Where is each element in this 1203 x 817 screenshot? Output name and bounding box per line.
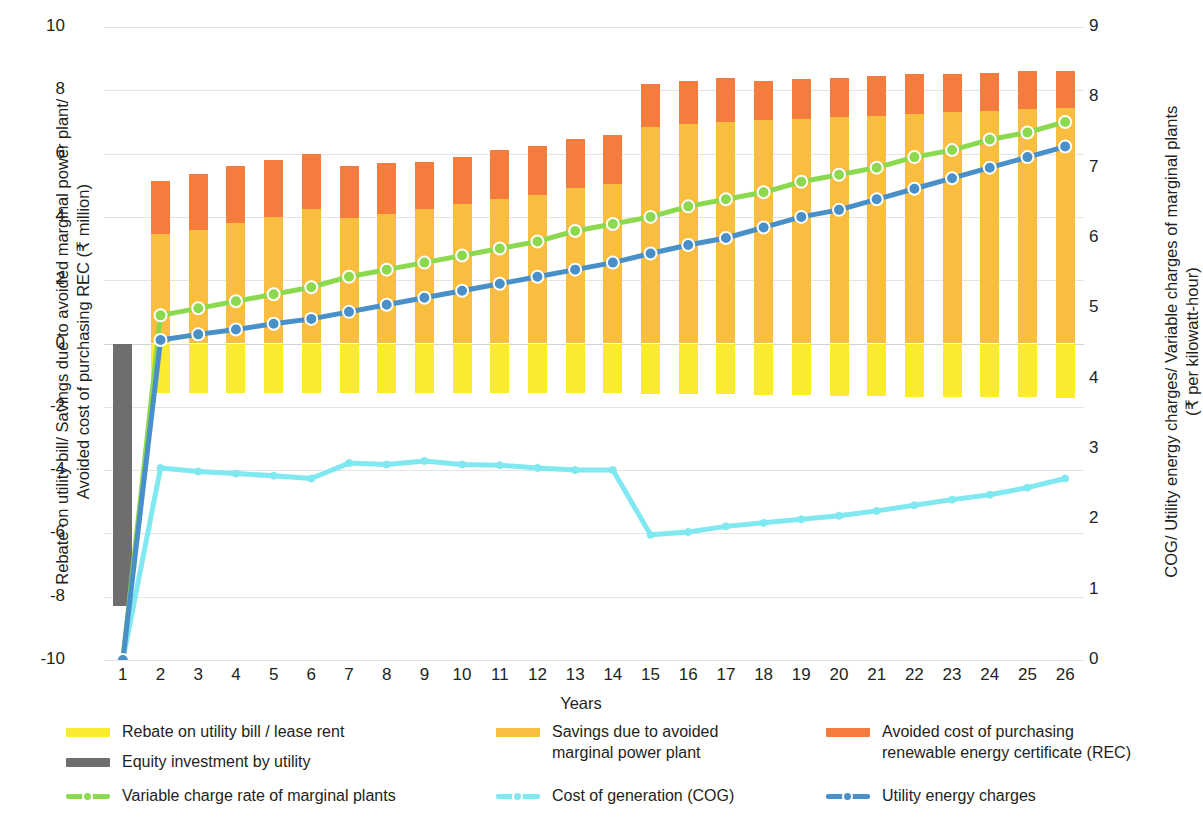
x-axis-tick-label: 15 bbox=[631, 665, 671, 685]
bar-group bbox=[340, 27, 359, 660]
bar-group bbox=[641, 27, 660, 660]
gridline bbox=[104, 533, 1084, 534]
x-axis-tick-label: 16 bbox=[668, 665, 708, 685]
bar-segment-rebate bbox=[716, 344, 735, 395]
x-axis-tick-label: 20 bbox=[819, 665, 859, 685]
y-axis-left-tick-label: -4 bbox=[25, 459, 65, 479]
legend-label: Avoided cost of purchasing renewable ene… bbox=[882, 722, 1131, 764]
bar-group bbox=[566, 27, 585, 660]
bar-group bbox=[189, 27, 208, 660]
bar-segment-rec bbox=[830, 78, 849, 118]
y-axis-left-tick-label: 10 bbox=[25, 16, 65, 36]
x-axis-tick-label: 13 bbox=[555, 665, 595, 685]
y-axis-left-tick-label: -8 bbox=[25, 586, 65, 606]
x-axis-tick-label: 12 bbox=[517, 665, 557, 685]
bar-segment-savings bbox=[980, 111, 999, 344]
bar-segment-rebate bbox=[867, 344, 886, 396]
legend-item[interactable]: Savings due to avoided marginal power pl… bbox=[496, 722, 718, 764]
legend-item[interactable]: Cost of generation (COG) bbox=[496, 786, 734, 807]
legend-item[interactable]: Avoided cost of purchasing renewable ene… bbox=[826, 722, 1131, 764]
legend-item[interactable]: Equity investment by utility bbox=[66, 752, 311, 773]
y-axis-left-tick-label: -6 bbox=[25, 522, 65, 542]
legend-item[interactable]: Variable charge rate of marginal plants bbox=[66, 786, 396, 807]
bar-group bbox=[490, 27, 509, 660]
bar-segment-rec bbox=[754, 81, 773, 121]
y-axis-left-tick-label: 6 bbox=[25, 143, 65, 163]
x-axis-tick-label: 21 bbox=[857, 665, 897, 685]
legend-swatch-icon bbox=[496, 728, 540, 737]
bar-segment-rebate bbox=[754, 344, 773, 395]
bar-segment-savings bbox=[415, 209, 434, 344]
bar-segment-rebate bbox=[679, 344, 698, 395]
x-axis-tick-label: 5 bbox=[254, 665, 294, 685]
bar-segment-rec bbox=[980, 73, 999, 111]
x-axis-tick-label: 7 bbox=[329, 665, 369, 685]
y-axis-left-tick-label: -10 bbox=[25, 649, 65, 669]
bar-segment-rec bbox=[716, 78, 735, 122]
gridline bbox=[104, 597, 1084, 598]
y-axis-left-tick-label: 0 bbox=[25, 333, 65, 353]
bar-segment-savings bbox=[302, 209, 321, 344]
bar-segment-savings bbox=[867, 116, 886, 344]
bar-segment-rebate bbox=[189, 344, 208, 393]
x-axis-tick-label: 24 bbox=[970, 665, 1010, 685]
bar-group bbox=[151, 27, 170, 660]
bar-segment-rec bbox=[792, 79, 811, 119]
y-axis-left-tick-label: 8 bbox=[25, 79, 65, 99]
bar-group bbox=[679, 27, 698, 660]
bar-group bbox=[415, 27, 434, 660]
bar-segment-savings bbox=[528, 195, 547, 344]
legend-item[interactable]: Rebate on utility bill / lease rent bbox=[66, 722, 344, 743]
bar-segment-savings bbox=[226, 223, 245, 343]
bar-segment-rec bbox=[1018, 71, 1037, 109]
bar-segment-rebate bbox=[641, 344, 660, 395]
x-axis-tick-label: 25 bbox=[1007, 665, 1047, 685]
bar-segment-rec bbox=[151, 181, 170, 235]
legend-label: Utility energy charges bbox=[882, 786, 1036, 807]
bar-group bbox=[603, 27, 622, 660]
x-axis-tick-label: 23 bbox=[932, 665, 972, 685]
bar-segment-rebate bbox=[943, 344, 962, 397]
legend-label: Rebate on utility bill / lease rent bbox=[122, 722, 344, 743]
legend-item[interactable]: Utility energy charges bbox=[826, 786, 1036, 807]
bar-segment-rec bbox=[189, 174, 208, 229]
bar-group bbox=[754, 27, 773, 660]
bar-group bbox=[302, 27, 321, 660]
bar-group bbox=[264, 27, 283, 660]
bar-group bbox=[830, 27, 849, 660]
bar-segment-rec bbox=[264, 160, 283, 217]
y-axis-right-tick-label: 7 bbox=[1089, 157, 1129, 177]
gridline bbox=[104, 280, 1084, 281]
x-axis-tick-label: 18 bbox=[744, 665, 784, 685]
bar-segment-rebate bbox=[453, 344, 472, 393]
legend-swatch-icon bbox=[66, 728, 110, 737]
legend-label: Savings due to avoided marginal power pl… bbox=[552, 722, 718, 764]
x-axis-tick-label: 26 bbox=[1045, 665, 1085, 685]
bar-segment-rebate bbox=[1018, 344, 1037, 398]
bar-group bbox=[453, 27, 472, 660]
bar-segment-rec bbox=[377, 163, 396, 214]
bar-segment-rec bbox=[528, 146, 547, 195]
bar-segment-rebate bbox=[377, 344, 396, 393]
bar-segment-rec bbox=[415, 162, 434, 209]
bar-segment-savings bbox=[830, 117, 849, 343]
bar-segment-rec bbox=[453, 157, 472, 204]
gridline bbox=[104, 154, 1084, 155]
y-axis-right-tick-label: 1 bbox=[1089, 579, 1129, 599]
bar-segment-savings bbox=[716, 122, 735, 344]
legend-label: Equity investment by utility bbox=[122, 752, 311, 773]
bar-segment-rebate bbox=[340, 344, 359, 393]
legend-line-marker-icon bbox=[66, 789, 110, 803]
bar-group bbox=[1056, 27, 1075, 660]
bar-segment-savings bbox=[603, 184, 622, 344]
bar-segment-rec bbox=[302, 154, 321, 209]
y-axis-left-tick-label: 4 bbox=[25, 206, 65, 226]
x-axis-tick-label: 2 bbox=[141, 665, 181, 685]
bar-segment-rebate bbox=[603, 344, 622, 393]
x-axis-tick-label: 11 bbox=[480, 665, 520, 685]
bar-segment-rec bbox=[679, 81, 698, 124]
bar-segment-rec bbox=[603, 135, 622, 184]
legend-swatch-icon bbox=[66, 758, 110, 767]
bar-segment-rec bbox=[566, 139, 585, 188]
